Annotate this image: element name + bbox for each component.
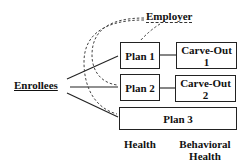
plan-2-label: Plan 2 — [125, 82, 155, 94]
carve-out-2-label: Carve-Out — [180, 77, 231, 89]
plan-1-label: Plan 1 — [125, 50, 155, 62]
carve-out-1-number: 1 — [204, 56, 210, 68]
edge-employer-plan1 — [140, 24, 160, 41]
behavioral-health-label: Health — [178, 150, 232, 162]
carve-out-2-box: Carve-Out 2 — [175, 75, 236, 102]
plan-3-box: Plan 3 — [119, 107, 237, 130]
plan-3-label: Plan 3 — [163, 113, 193, 125]
carve-out-2-number: 2 — [203, 89, 209, 101]
employer-label: Employer — [146, 11, 192, 23]
behavioral-label: Behavioral — [178, 138, 232, 150]
enrollees-label: Enrollees — [14, 79, 58, 91]
carve-out-1-box: Carve-Out 1 — [176, 42, 237, 69]
plan-2-box: Plan 2 — [120, 74, 160, 101]
plan-1-box: Plan 1 — [120, 42, 160, 69]
enrollment-diagram: Employer Enrollees Plan 1 Carve-Out 1 Pl… — [0, 0, 250, 168]
carve-out-1-label: Carve-Out — [181, 44, 232, 56]
column-label-behavioral-health: Behavioral Health — [178, 138, 232, 162]
column-label-health: Health — [124, 138, 156, 150]
